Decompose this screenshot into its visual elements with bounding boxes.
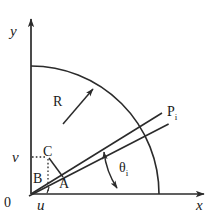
v-label: v: [12, 150, 19, 165]
radius-label: R: [53, 95, 62, 109]
angle-arc-b: [47, 187, 49, 193]
point-a-label: A: [59, 177, 69, 191]
theta-subscript: i: [126, 168, 129, 178]
point-b-label: B: [33, 172, 42, 186]
radius-arc: [31, 66, 159, 194]
radius-leader-arrow: [63, 89, 93, 124]
y-axis-label: y: [10, 24, 17, 39]
point-p-label: Pi: [167, 105, 177, 122]
diagram-canvas: [0, 0, 217, 220]
x-axis-label: x: [196, 198, 203, 213]
point-p-subscript: i: [175, 112, 178, 122]
theta-label: θi: [119, 161, 128, 178]
segment-c-to-a: [49, 158, 63, 177]
theta-angle-arc: [104, 152, 117, 188]
origin-label: 0: [4, 196, 11, 210]
point-p-letter: P: [167, 104, 175, 119]
geometry-figure: y x 0 u v R A B C Pi θi: [0, 0, 217, 220]
theta-symbol: θ: [119, 160, 126, 175]
u-label: u: [37, 198, 45, 213]
point-c-label: C: [43, 145, 52, 159]
